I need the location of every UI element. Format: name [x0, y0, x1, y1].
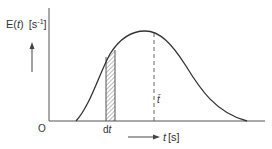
mean-label: t̄: [157, 94, 161, 105]
right-arrow-icon: [128, 135, 160, 140]
rtd-chart: E(t) [s-1] O dt t̄ t[s]: [0, 0, 272, 149]
x-axis-label: t[s]: [163, 131, 180, 143]
e-t-curve: [76, 31, 247, 121]
up-arrow-icon: [30, 42, 35, 72]
dt-label: dt: [103, 124, 113, 135]
origin-label: O: [38, 123, 46, 134]
y-axis-label: E(t) [s-1]: [6, 18, 47, 30]
